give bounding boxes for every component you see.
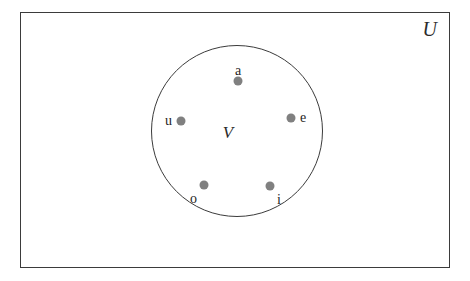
element-label-u: u bbox=[165, 114, 172, 128]
element-dot-i bbox=[266, 182, 275, 191]
element-dot-u bbox=[177, 117, 186, 126]
set-v-label: V bbox=[223, 124, 233, 141]
element-label-a: a bbox=[235, 64, 241, 78]
element-label-e: e bbox=[300, 111, 306, 125]
element-dot-o bbox=[200, 181, 209, 190]
element-label-o: o bbox=[190, 192, 197, 206]
element-label-i: i bbox=[277, 193, 281, 207]
element-dot-e bbox=[287, 114, 296, 123]
venn-diagram-figure: U V aueoi bbox=[0, 0, 470, 281]
universal-set-label: U bbox=[423, 19, 437, 39]
